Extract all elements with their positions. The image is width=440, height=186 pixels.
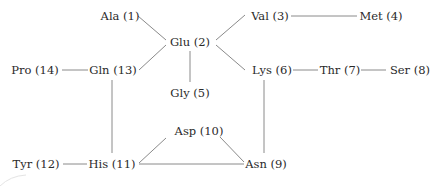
node-11: His (11): [89, 157, 136, 171]
node-4: Met (4): [359, 9, 402, 23]
nodes-layer: Ala (1)Glu (2)Val (3)Met (4)Gly (5)Lys (…: [11, 9, 430, 171]
edge-11-10: [139, 138, 166, 163]
decorative-arc: [0, 175, 26, 186]
edge-1-2: [138, 16, 166, 40]
edge-2-3: [216, 15, 245, 40]
node-7: Thr (7): [320, 63, 361, 77]
node-5: Gly (5): [170, 86, 209, 100]
node-1: Ala (1): [100, 9, 140, 23]
node-10: Asp (10): [174, 124, 224, 138]
edge-13-2: [139, 45, 166, 70]
edge-2-6: [216, 45, 245, 70]
edges-layer: [62, 15, 386, 164]
node-13: Gln (13): [89, 63, 137, 77]
node-14: Pro (14): [11, 63, 58, 77]
node-8: Ser (8): [390, 63, 430, 77]
node-3: Val (3): [250, 9, 289, 23]
node-12: Tyr (12): [13, 157, 60, 171]
node-2: Glu (2): [170, 35, 210, 49]
edge-10-9: [220, 137, 244, 162]
amino-acid-graph: Ala (1)Glu (2)Val (3)Met (4)Gly (5)Lys (…: [0, 0, 440, 186]
node-9: Asn (9): [244, 157, 287, 171]
node-6: Lys (6): [252, 63, 292, 77]
